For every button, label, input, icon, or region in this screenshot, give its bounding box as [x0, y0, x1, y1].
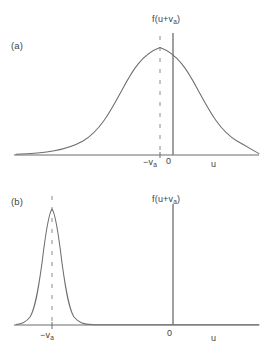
y-axis-label-b-main: f(u+v [152, 194, 173, 204]
y-axis-label-b: f(u+va) [152, 194, 180, 204]
x-tick-label-neg-va-a: −va [143, 157, 157, 167]
x-axis-label-a: u [211, 159, 216, 169]
y-axis-label-a: f(u+va) [152, 14, 180, 24]
x-axis-label-b: u [211, 333, 216, 343]
panel-b: (b) f(u+va) −va 0 u [0, 180, 273, 358]
distribution-curve-a [16, 48, 259, 155]
x-tick-label-neg-va-a-main: −v [143, 157, 153, 167]
panel-label-b: (b) [11, 196, 23, 207]
y-axis-label-b-close: ) [177, 194, 180, 204]
panel-a-plot [0, 0, 273, 180]
y-axis-label-b-sub: a [173, 198, 177, 205]
x-tick-label-neg-va-b-main: −v [40, 330, 50, 340]
panel-label-a: (a) [11, 40, 23, 51]
y-axis-label-a-main: f(u+v [152, 14, 173, 24]
x-tick-label-zero-b: 0 [167, 328, 172, 338]
x-tick-label-neg-va-b-sub: a [50, 334, 54, 341]
x-tick-label-neg-va-b: −va [40, 330, 54, 340]
panel-a: (a) f(u+va) −va 0 u [0, 0, 273, 180]
figure-container: (a) f(u+va) −va 0 u (b) f(u+va) −va 0 u [0, 0, 273, 358]
x-tick-label-zero-a: 0 [166, 156, 171, 166]
y-axis-label-a-close: ) [177, 14, 180, 24]
x-tick-label-neg-va-a-sub: a [153, 161, 157, 168]
y-axis-label-a-sub: a [173, 18, 177, 25]
